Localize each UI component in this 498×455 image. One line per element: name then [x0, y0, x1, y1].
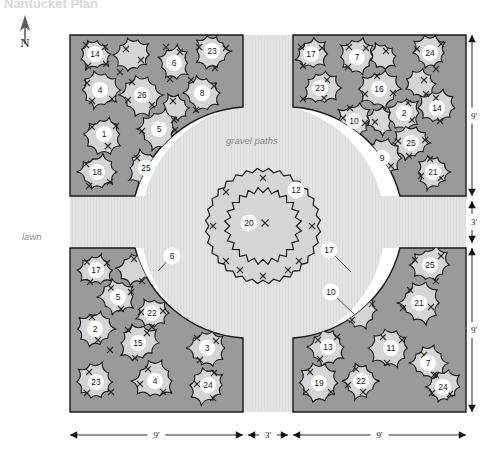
plant-key-23[interactable]: 23	[88, 374, 104, 390]
plant-key-label: 7	[426, 358, 431, 368]
plant-key-7[interactable]: 7	[349, 49, 365, 65]
plant-key-label: 18	[92, 167, 102, 177]
plant-key-2[interactable]: 2	[396, 105, 412, 121]
plant-key-label: 2	[402, 108, 407, 118]
plant-key-18[interactable]: 18	[89, 164, 105, 180]
plant-key-25[interactable]: 25	[403, 135, 419, 151]
plant-key-12[interactable]: 12	[288, 182, 305, 199]
plant-key-24[interactable]: 24	[422, 45, 438, 61]
plant-key-label: 25	[425, 260, 435, 270]
plant-key-5[interactable]: 5	[151, 121, 167, 137]
plant-key-6[interactable]: 6	[166, 55, 182, 71]
plant-key-label: 8	[200, 88, 205, 98]
plant-key-label: 25	[141, 163, 151, 173]
plant-key-4[interactable]: 4	[147, 373, 163, 389]
plant-key-label: 24	[203, 380, 213, 390]
dimension-label: 9'	[471, 325, 478, 335]
north-label: N	[20, 35, 30, 50]
lawn-label: lawn	[22, 231, 42, 242]
plant-key-26[interactable]: 26	[134, 87, 150, 103]
plant-key-19[interactable]: 19	[311, 375, 327, 391]
plant-key-label: 19	[314, 378, 324, 388]
plant-key-11[interactable]: 11	[383, 340, 399, 356]
plant-key-label: 20	[244, 218, 254, 228]
plant-key-17[interactable]: 17	[88, 262, 104, 278]
plant-key-22[interactable]: 22	[353, 373, 369, 389]
plant-key-label: 12	[291, 185, 301, 195]
page-title: Nantucket Plan	[4, 0, 98, 11]
plant-key-label: 22	[356, 376, 366, 386]
dimension-label: 9'	[376, 430, 383, 440]
plant-key-label: 2	[93, 324, 98, 334]
plant-key-5[interactable]: 5	[110, 289, 126, 305]
plant-key-21[interactable]: 21	[411, 295, 427, 311]
plant-key-10[interactable]: 10	[346, 113, 362, 129]
plant-key-label: 17	[306, 49, 316, 59]
plant-key-label: 17	[324, 245, 334, 255]
plant-key-23[interactable]: 23	[204, 43, 220, 59]
plant-key-20[interactable]: 20	[241, 215, 258, 232]
plant-key-label: 22	[147, 308, 157, 318]
plant-key-label: 26	[137, 90, 147, 100]
dimension-label: 9'	[471, 111, 478, 121]
dimension-label: 9'	[153, 430, 160, 440]
plant-key-label: 6	[172, 58, 177, 68]
plant-key-4[interactable]: 4	[92, 82, 108, 98]
plant-key-15[interactable]: 15	[130, 335, 146, 351]
plant-key-label: 21	[414, 298, 424, 308]
plant-key-label: 24	[438, 382, 448, 392]
dimension-label: 3'	[265, 430, 272, 440]
plant-key-label: 21	[428, 167, 438, 177]
plant-key-label: 23	[207, 46, 217, 56]
plant-key-label: 1	[102, 129, 107, 139]
plant-key-label: 25	[406, 138, 416, 148]
plant-key-label: 14	[90, 49, 100, 59]
plant-key-25[interactable]: 25	[138, 160, 154, 176]
plant-key-21[interactable]: 21	[425, 164, 441, 180]
plant-key-24[interactable]: 24	[435, 379, 451, 395]
plant-key-24[interactable]: 24	[200, 377, 216, 393]
plant-key-label: 13	[323, 342, 333, 352]
plant-key-label: 23	[91, 377, 101, 387]
plant-key-label: 11	[387, 343, 396, 353]
plant-key-1[interactable]: 1	[96, 126, 112, 142]
plant-key-14[interactable]: 14	[87, 46, 103, 62]
plant-key-label: 24	[425, 48, 435, 58]
plant-key-7[interactable]: 7	[420, 355, 436, 371]
plant-key-label: 6	[170, 251, 175, 261]
garden-plan-diagram: Nantucket Plan N lawn gravel paths 14623…	[0, 0, 498, 455]
plant-key-17[interactable]: 17	[303, 46, 319, 62]
plant-key-22[interactable]: 22	[144, 305, 160, 321]
plant-key-25[interactable]: 25	[422, 257, 438, 273]
plant-key-16[interactable]: 16	[371, 81, 387, 97]
plant-key-label: 5	[157, 124, 162, 134]
dimension-label: 3'	[471, 217, 478, 227]
plant-key-8[interactable]: 8	[194, 85, 210, 101]
plant-key-label: 4	[98, 85, 103, 95]
plant-key-label: 5	[116, 292, 121, 302]
plant-key-9[interactable]: 9	[374, 150, 390, 166]
plant-key-label: 16	[374, 84, 384, 94]
plant-key-2[interactable]: 2	[87, 321, 103, 337]
plant-key-label: 15	[133, 338, 143, 348]
plant-key-label: 3	[205, 343, 210, 353]
plant-key-13[interactable]: 13	[320, 339, 336, 355]
plant-key-14[interactable]: 14	[429, 100, 445, 116]
plant-key-label: 7	[355, 52, 360, 62]
plant-key-label: 10	[349, 116, 359, 126]
plant-key-23[interactable]: 23	[312, 80, 328, 96]
plant-key-label: 17	[91, 265, 101, 275]
plant-key-3[interactable]: 3	[199, 340, 215, 356]
plant-key-label: 23	[315, 83, 325, 93]
gravel-paths-label: gravel paths	[226, 135, 278, 146]
plant-key-label: 10	[326, 287, 336, 297]
plant-key-label: 14	[432, 103, 442, 113]
plant-key-label: 4	[153, 376, 158, 386]
plant-key-label: 9	[380, 153, 385, 163]
